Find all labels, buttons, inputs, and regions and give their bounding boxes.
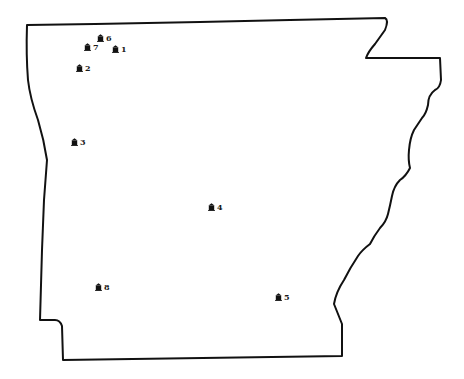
marker-2[interactable]: 2: [76, 63, 91, 73]
marker-1[interactable]: 1: [112, 44, 127, 54]
marker-6[interactable]: 6: [97, 33, 112, 43]
building-icon: [84, 43, 91, 51]
building-icon: [112, 45, 119, 53]
building-icon: [95, 283, 102, 291]
building-icon: [275, 293, 282, 301]
marker-8[interactable]: 8: [95, 282, 110, 292]
marker-label: 5: [284, 293, 290, 301]
marker-label: 6: [106, 34, 112, 42]
building-icon: [208, 203, 215, 211]
state-map: 1 2 3 4 5: [0, 0, 464, 379]
marker-label: 1: [121, 45, 127, 53]
building-icon: [71, 138, 78, 146]
marker-label: 3: [80, 138, 86, 146]
marker-5[interactable]: 5: [275, 292, 290, 302]
marker-label: 4: [217, 203, 223, 211]
marker-label: 7: [93, 43, 99, 51]
marker-4[interactable]: 4: [208, 202, 223, 212]
building-icon: [97, 34, 104, 42]
marker-label: 2: [85, 64, 91, 72]
building-icon: [76, 64, 83, 72]
marker-3[interactable]: 3: [71, 137, 86, 147]
state-outline: [0, 0, 464, 379]
marker-label: 8: [104, 283, 110, 291]
marker-7[interactable]: 7: [84, 42, 99, 52]
